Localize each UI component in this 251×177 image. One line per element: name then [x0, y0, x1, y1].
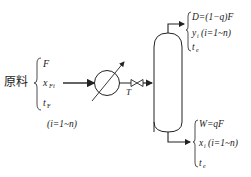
- bottoms-flow: W=qF: [199, 119, 224, 129]
- svg-text:t: t: [199, 158, 202, 168]
- bottom-outlet-arrow: [168, 132, 190, 142]
- feed-brace: [34, 58, 41, 110]
- top-outlet-arrow: [168, 24, 184, 33]
- bottom-brace: [193, 120, 198, 167]
- svg-text:i: i: [197, 33, 199, 39]
- feed-temperature: t F: [43, 97, 51, 109]
- valve-icon: [131, 80, 143, 87]
- svg-text:Fi: Fi: [48, 82, 55, 89]
- svg-text:i: i: [204, 143, 206, 149]
- svg-text:(i=1~n): (i=1~n): [201, 28, 231, 39]
- flash-drum: [154, 33, 182, 132]
- feed-label: 原料: [4, 75, 28, 89]
- svg-text:e: e: [203, 163, 206, 169]
- feed-range: (i=1~n): [47, 119, 77, 130]
- svg-text:(i=1~n): (i=1~n): [208, 138, 238, 149]
- bottom-temperature: t e: [199, 158, 206, 169]
- liquid-composition: x i (i=1~n): [198, 138, 238, 149]
- svg-text:x: x: [42, 77, 48, 88]
- distillate-flow: D=(1−q)F: [191, 12, 234, 23]
- feed-flow-var: F: [42, 58, 50, 69]
- svg-text:e: e: [196, 47, 199, 53]
- svg-text:t: t: [192, 42, 195, 52]
- temperature-label: T: [126, 87, 132, 97]
- feed-composition: x Fi: [42, 77, 55, 89]
- svg-text:F: F: [47, 102, 51, 109]
- vapor-composition: y i (i=1~n): [191, 28, 231, 39]
- top-brace: [186, 12, 191, 51]
- flash-distillation-diagram: 原料 F x Fi t F (i=1~n) T D=(1−q)F y i (i=…: [0, 0, 251, 177]
- svg-text:t: t: [43, 97, 46, 108]
- top-temperature: t e: [192, 42, 199, 53]
